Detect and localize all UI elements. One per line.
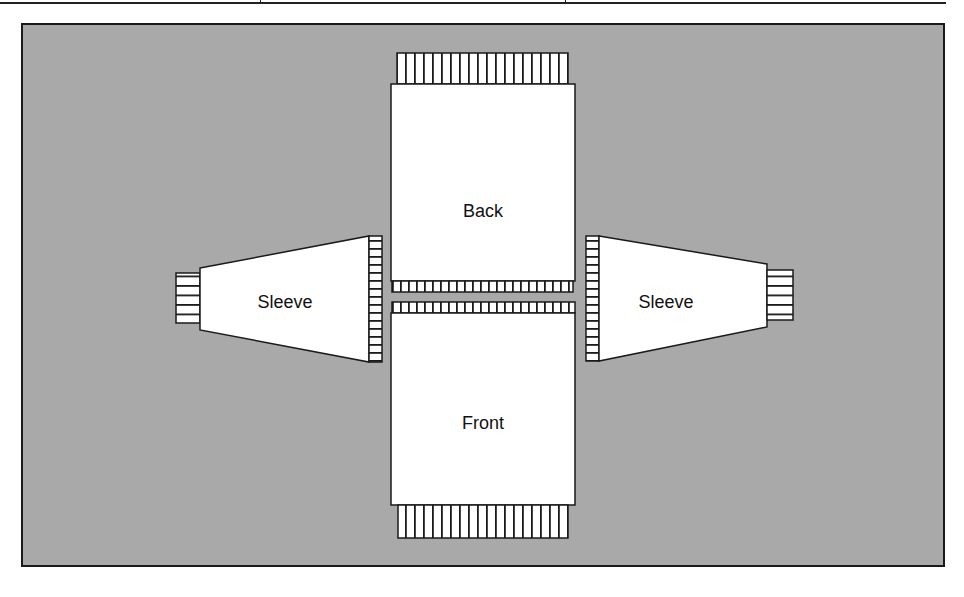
front-label: Front xyxy=(462,413,504,433)
back-body xyxy=(391,84,575,281)
left-sleeve-cap-ribbing xyxy=(369,236,382,362)
left-sleeve-piece: Sleeve xyxy=(176,236,382,362)
front-top-ribbing xyxy=(392,302,575,313)
left-sleeve-cuff xyxy=(176,273,200,323)
back-piece: Back xyxy=(391,53,575,292)
right-sleeve-cuff xyxy=(767,270,793,320)
right-sleeve-piece: Sleeve xyxy=(586,236,793,361)
left-sleeve-label: Sleeve xyxy=(257,292,312,312)
front-piece: Front xyxy=(391,302,575,538)
right-sleeve-label: Sleeve xyxy=(638,292,693,312)
sweater-layout-diagram: Back Front Sleeve Sleeve xyxy=(0,0,964,597)
back-label: Back xyxy=(463,201,504,221)
back-bottom-ribbing xyxy=(392,281,573,292)
back-top-ribbing xyxy=(397,53,568,84)
front-body xyxy=(391,313,575,505)
front-bottom-ribbing xyxy=(398,505,568,538)
right-sleeve-cap-ribbing xyxy=(586,236,599,361)
